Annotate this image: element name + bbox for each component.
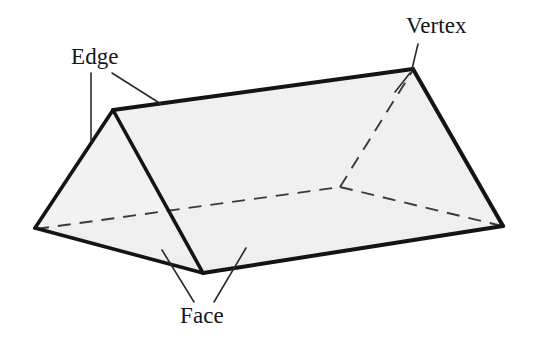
label-vertex: Vertex [406, 14, 467, 37]
label-face: Face [180, 304, 224, 327]
leader-edge-diagonal [112, 73, 161, 104]
figure-root: Vertex Edge Face [0, 0, 534, 343]
leader-vertex [412, 44, 418, 69]
label-edge: Edge [71, 45, 119, 68]
